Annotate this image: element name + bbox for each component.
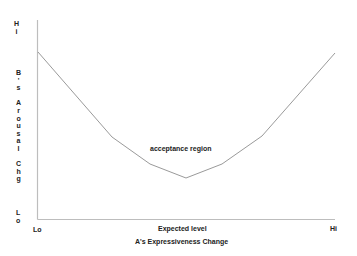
- y-axis-title-char: ': [18, 77, 20, 85]
- y-axis-title-char: [18, 153, 20, 161]
- y-axis-title-char: u: [16, 122, 20, 130]
- y-axis-title-char: s: [17, 130, 21, 138]
- y-axis-title-char: B: [16, 69, 21, 77]
- chart-canvas: [0, 0, 357, 256]
- y-axis-title-char: l: [18, 145, 20, 153]
- y-axis-title-char: h: [16, 168, 20, 176]
- y-tick-lo: Lo: [16, 209, 20, 224]
- y-axis-title-char: [18, 92, 20, 100]
- y-axis-title-char: o: [16, 115, 20, 123]
- y-axis-title-char: s: [17, 84, 21, 92]
- y-axis-title: B's Arousal Chg: [16, 69, 21, 183]
- y-axis-title-char: g: [16, 175, 20, 183]
- y-axis-title-char: a: [17, 137, 21, 145]
- x-tick-hi: Hi: [330, 225, 337, 232]
- y-axis-title-char: A: [16, 99, 21, 107]
- x-tick-lo: Lo: [33, 226, 42, 233]
- y-axis-title-char: r: [17, 107, 20, 115]
- x-tick-expected-level: Expected level: [158, 225, 207, 232]
- acceptance-region-label: acceptance region: [150, 145, 211, 152]
- arousal-curve: [38, 52, 335, 178]
- y-tick-hi: Hi: [14, 20, 19, 35]
- x-axis-title: A's Expressiveness Change: [135, 238, 228, 245]
- y-axis-title-char: C: [16, 160, 21, 168]
